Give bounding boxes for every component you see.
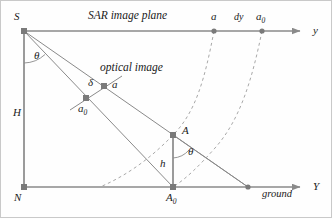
label-a-axis: a: [211, 11, 217, 22]
label-sensor-S: S: [14, 11, 20, 22]
label-a-optical: a: [112, 79, 118, 90]
theta-arc-at-A: [173, 150, 189, 158]
node-ground-point: [245, 184, 250, 189]
node-A0: [170, 184, 176, 190]
sar-geometry-diagram: S SAR image plane a dy a0 y θ optical im…: [0, 0, 333, 219]
label-point-A0-base: A: [166, 191, 173, 203]
label-dy: dy: [234, 12, 243, 22]
label-height-H: H: [13, 107, 21, 118]
label-optical-image: optical image: [100, 62, 163, 74]
label-nadir-N: N: [14, 192, 21, 203]
label-point-A0: A0: [166, 192, 176, 206]
slant-line-A-to-ground: [173, 135, 248, 187]
diagram-canvas: [0, 0, 333, 219]
node-a-optical: [101, 83, 107, 89]
node-a-axis: [211, 28, 216, 33]
label-axis-y-top: y: [313, 25, 318, 36]
label-a0-optical-sub: 0: [84, 108, 88, 117]
label-target-height-h: h: [160, 158, 166, 169]
label-ground: ground: [262, 189, 292, 200]
label-point-A: A: [182, 125, 189, 136]
label-theta-top: θ: [34, 50, 39, 61]
node-a0-axis: [259, 28, 264, 33]
label-theta-bottom: θ: [188, 146, 193, 157]
ray-S-to-A0: [24, 31, 173, 187]
node-a0-optical: [83, 95, 89, 101]
node-S: [21, 28, 27, 34]
label-a0-axis: a0: [256, 11, 265, 25]
label-point-A0-sub: 0: [173, 197, 177, 206]
label-sar-image-plane: SAR image plane: [88, 10, 167, 22]
label-delta: δ: [88, 77, 93, 88]
label-axis-Y-bottom: Y: [313, 181, 319, 192]
label-a0-optical: a0: [78, 103, 87, 117]
node-N: [21, 184, 27, 190]
dashed-arc-right: [173, 31, 262, 187]
dashed-arc-left: [100, 31, 214, 187]
label-a0-axis-sub: 0: [262, 16, 266, 25]
node-A: [170, 132, 176, 138]
